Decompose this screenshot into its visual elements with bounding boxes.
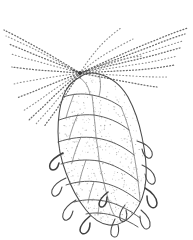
stipple-dot	[84, 97, 85, 98]
stipple-dot	[131, 159, 132, 160]
stipple-dot	[77, 141, 78, 142]
stipple-dot	[84, 117, 85, 118]
stipple-dot	[82, 119, 83, 120]
stipple-dot	[134, 113, 135, 114]
stipple-dot	[87, 152, 88, 153]
stipple-dot	[127, 146, 128, 147]
stipple-dot	[101, 220, 102, 221]
stipple-dot	[101, 136, 102, 137]
stipple-dot	[114, 175, 115, 176]
stipple-dot	[90, 91, 91, 92]
stipple-dot	[108, 104, 109, 105]
stipple-dot	[134, 176, 135, 177]
stipple-dot	[103, 188, 104, 189]
stipple-dot	[132, 138, 133, 139]
stipple-dot	[106, 136, 107, 137]
stipple-dot	[96, 179, 97, 180]
stipple-dot	[124, 94, 125, 95]
stipple-dot	[95, 189, 96, 190]
stipple-dot	[141, 180, 142, 181]
stipple-dot	[84, 130, 85, 131]
stipple-dot	[105, 220, 106, 221]
stipple-dot	[86, 210, 87, 211]
stipple-dot	[129, 168, 130, 169]
stipple-dot	[141, 197, 142, 198]
stipple-dot	[116, 112, 117, 113]
stipple-dot	[130, 125, 131, 126]
stipple-dot	[135, 193, 136, 194]
stipple-dot	[130, 140, 131, 141]
stipple-dot	[100, 211, 101, 212]
stipple-dot	[117, 222, 118, 223]
stipple-dot	[68, 135, 69, 136]
stipple-dot	[116, 154, 117, 155]
stipple-dot	[96, 147, 97, 148]
stipple-dot	[127, 207, 128, 208]
stipple-dot	[105, 120, 106, 121]
stipple-dot	[93, 138, 94, 139]
botanical-figure	[0, 0, 193, 240]
stipple-dot	[101, 129, 102, 130]
stipple-dot	[125, 204, 126, 205]
stipple-dot	[82, 201, 83, 202]
stipple-dot	[142, 155, 143, 156]
stipple-dot	[64, 156, 65, 157]
stipple-dot	[90, 148, 91, 149]
stipple-dot	[102, 163, 103, 164]
stipple-dot	[101, 117, 102, 118]
stipple-dot	[114, 171, 115, 172]
stipple-dot	[121, 173, 122, 174]
stipple-dot	[76, 120, 77, 121]
stipple-dot	[88, 163, 89, 164]
stipple-dot	[93, 173, 94, 174]
stipple-dot	[127, 142, 128, 143]
stipple-dot	[143, 191, 144, 192]
stipple-dot	[72, 175, 73, 176]
stipple-dot	[115, 206, 116, 207]
stipple-dot	[127, 117, 128, 118]
stipple-dot	[75, 153, 76, 154]
stipple-dot	[100, 108, 101, 109]
stipple-dot	[111, 203, 112, 204]
stipple-dot	[87, 168, 88, 169]
stipple-dot	[80, 133, 81, 134]
stipple-dot	[100, 173, 101, 174]
stipple-dot	[105, 146, 106, 147]
stipple-dot	[111, 193, 112, 194]
stipple-dot	[59, 148, 60, 149]
stipple-dot	[124, 174, 125, 175]
stipple-dot	[83, 112, 84, 113]
stipple-dot	[88, 145, 89, 146]
stipple-dot	[119, 108, 120, 109]
stipple-dot	[124, 180, 125, 181]
stipple-dot	[74, 169, 75, 170]
stipple-dot	[104, 127, 105, 128]
stipple-dot	[124, 138, 125, 139]
stipple-dot	[101, 217, 102, 218]
stipple-dot	[117, 119, 118, 120]
stipple-dot	[70, 181, 71, 182]
stipple-dot	[120, 162, 121, 163]
stipple-dot	[99, 102, 100, 103]
stipple-dot	[84, 105, 85, 106]
stipple-dot	[95, 82, 96, 83]
stipple-dot	[100, 112, 101, 113]
stipple-dot	[93, 98, 94, 99]
stipple-dot	[139, 176, 140, 177]
stipple-dot	[68, 151, 69, 152]
stipple-dot	[101, 158, 102, 159]
stipple-dot	[144, 184, 145, 185]
stipple-dot	[85, 146, 86, 147]
stipple-dot	[136, 139, 137, 140]
stipple-dot	[126, 214, 127, 215]
stipple-dot	[92, 82, 93, 83]
stipple-dot	[121, 122, 122, 123]
stipple-dot	[116, 152, 117, 153]
stipple-dot	[75, 141, 76, 142]
stipple-dot	[84, 103, 85, 104]
stipple-dot	[109, 136, 110, 137]
stipple-dot	[87, 97, 88, 98]
stipple-dot	[116, 200, 117, 201]
stipple-dot	[97, 156, 98, 157]
stipple-dot	[123, 186, 124, 187]
